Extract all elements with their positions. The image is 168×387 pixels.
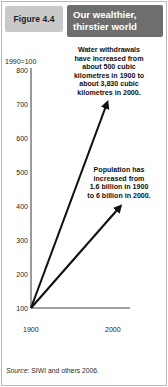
figure-source: Source: SIWI and others 2006. [6,367,99,374]
chart-plot-area: 1990=100 800 700 600 500 400 300 200 100… [0,36,168,361]
y-tick-label-600: 600 [2,135,28,142]
figure-title: Our wealthier, thirstier world [67,5,163,37]
annotation-water-line-1: Water withdrawals [78,46,140,54]
source-label: Source: [6,367,29,374]
annotation-water-line-5: about 3,830 cubic [79,80,139,88]
annotation-water-line-2: have increased from [75,55,144,63]
y-tick-label-700: 700 [2,101,28,108]
figure-title-line-1: Our wealthier, [73,9,163,21]
y-tick-label-100: 100 [2,305,28,312]
annotation-water-withdrawals: Water withdrawals have increased from ab… [52,46,166,98]
series-line-population [31,209,118,308]
source-value: SIWI and others 2006. [31,367,99,374]
y-tick-label-200: 200 [2,271,28,278]
figure-container: Figure 4.4 Our wealthier, thirstier worl… [0,0,168,387]
figure-header: Figure 4.4 Our wealthier, thirstier worl… [5,5,163,36]
annotation-population-line-3: 1.6 billion in 1900 [90,183,149,191]
y-tick-label-400: 400 [2,203,28,210]
series-line-water-withdrawals [31,106,106,308]
y-tick-label-500: 500 [2,169,28,176]
figure-number-badge: Figure 4.4 [5,6,63,32]
x-tick-label-2000: 2000 [105,326,121,333]
annotation-population-line-4: to 6 billion in 2000. [87,192,150,200]
annotation-water-line-3: about 500 cubic [82,63,136,71]
annotation-water-line-4: kilometres in 1900 to [74,72,144,80]
annotation-population-line-2: increased from [94,175,145,183]
annotation-water-line-6: kilometres in 2000. [77,89,140,97]
index-base-label: 1990=100 [5,58,36,65]
figure-title-line-2: thirstier world [73,21,163,33]
annotation-population: Population has increased from 1.6 billio… [72,166,166,200]
y-tick-label-300: 300 [2,237,28,244]
x-tick-label-1900: 1900 [23,326,39,333]
y-tick-label-800: 800 [2,67,28,74]
annotation-population-line-1: Population has [94,166,145,174]
